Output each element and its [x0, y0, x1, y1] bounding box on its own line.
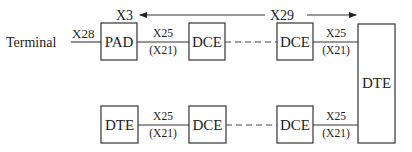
- bottom-link-1-alt-protocol: (X21): [149, 127, 177, 140]
- bottom-dte-label: DTE: [105, 117, 134, 133]
- top-link-1-protocol: X25: [153, 27, 173, 39]
- pad-label: PAD: [105, 34, 134, 50]
- top-dce-2-label: DCE: [280, 34, 310, 50]
- big-dte-label: DTE: [362, 75, 391, 91]
- top-link-2-protocol: X25: [326, 27, 346, 39]
- top-link-2-alt-protocol: (X21): [322, 44, 350, 57]
- x25-network-diagram: X3 X29 Terminal X28 PAD X25 (X21) DCE DC…: [0, 0, 412, 152]
- bottom-link-1-protocol: X25: [153, 110, 173, 122]
- terminal-label: Terminal: [6, 35, 56, 50]
- top-link-1-alt-protocol: (X21): [149, 44, 177, 57]
- top-dce-1-label: DCE: [192, 34, 222, 50]
- bottom-dce-1-label: DCE: [193, 117, 223, 133]
- bottom-link-2-protocol: X25: [326, 110, 346, 122]
- x29-label: X29: [270, 8, 294, 23]
- bottom-dce-2-label: DCE: [280, 117, 310, 133]
- x28-label: X28: [72, 26, 94, 41]
- x3-label: X3: [116, 8, 133, 23]
- bottom-link-2-alt-protocol: (X21): [322, 127, 350, 140]
